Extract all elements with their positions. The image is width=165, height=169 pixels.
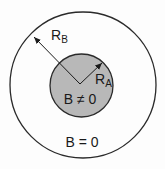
concentric-circles-diagram: RB RA B ≠ 0 B = 0: [0, 0, 165, 169]
outer-region-label: B = 0: [65, 134, 98, 150]
inner-region-label: B ≠ 0: [64, 91, 97, 107]
diagram-canvas: RB RA B ≠ 0 B = 0: [0, 0, 165, 169]
